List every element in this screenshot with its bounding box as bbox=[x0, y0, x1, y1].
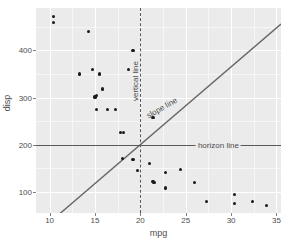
x-axis-tick-label: 35 bbox=[272, 216, 281, 225]
x-axis-tick-label: 15 bbox=[91, 216, 100, 225]
vertical-reference-line bbox=[140, 8, 141, 213]
annotation-vertical: vertical line bbox=[130, 61, 139, 101]
x-axis-tick-mark bbox=[231, 213, 232, 216]
data-point bbox=[164, 186, 167, 189]
x-axis-tick-mark bbox=[186, 213, 187, 216]
plot-panel: vertical lineslope linehorizon line bbox=[36, 8, 281, 213]
data-point bbox=[52, 21, 55, 24]
data-point bbox=[93, 95, 96, 98]
x-axis-tick-mark bbox=[140, 213, 141, 216]
annotation-horizon: horizon line bbox=[196, 140, 241, 149]
x-axis-tick-label: 30 bbox=[227, 216, 236, 225]
x-axis-tick-mark bbox=[95, 213, 96, 216]
x-axis-tick-label: 25 bbox=[181, 216, 190, 225]
x-axis-tick-mark bbox=[276, 213, 277, 216]
data-point bbox=[78, 72, 81, 75]
data-point bbox=[52, 15, 55, 18]
x-axis-tick-mark bbox=[50, 213, 51, 216]
data-point bbox=[131, 49, 134, 52]
data-point bbox=[98, 72, 101, 75]
data-point bbox=[91, 68, 94, 71]
horizon-reference-line bbox=[36, 145, 281, 146]
x-axis-tick-label: 20 bbox=[136, 216, 145, 225]
data-point bbox=[101, 87, 104, 90]
x-axis-tick-label: 10 bbox=[45, 216, 54, 225]
scatter-plot-figure: disp mpg 100200300400 101520253035 verti… bbox=[0, 0, 297, 249]
